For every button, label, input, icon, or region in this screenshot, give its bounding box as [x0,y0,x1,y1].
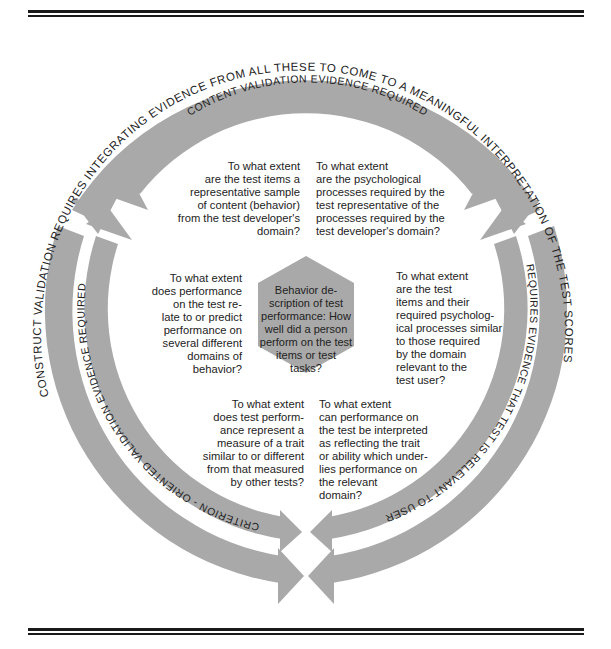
center-behavior-description: Behavior de- scription of test performan… [256,284,356,375]
question-content-sample: To what extent are the test items a repr… [162,160,300,238]
question-trait-measure: To what extent does test perform- ance r… [176,398,304,489]
inner-arrowhead-left-bottom [280,510,302,552]
question-psychological-processes: To what extent are the psychological pro… [316,160,466,238]
outer-arrowhead-bottom-left [278,548,304,604]
question-domain-relevance: To what extent are the test items and th… [396,270,526,387]
bottom-rule-thick [28,628,584,631]
outer-arrowhead-bottom-right [308,548,334,604]
bottom-rule-thin [28,633,584,635]
question-predict-performance: To what extent does performance on the t… [150,272,242,376]
question-trait-interpretation: To what extent can performance on the te… [319,398,459,502]
inner-arrowhead-right-bottom [310,510,332,552]
